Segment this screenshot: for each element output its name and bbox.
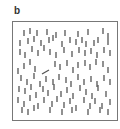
target-line	[42, 70, 49, 74]
search-array	[0, 0, 120, 129]
